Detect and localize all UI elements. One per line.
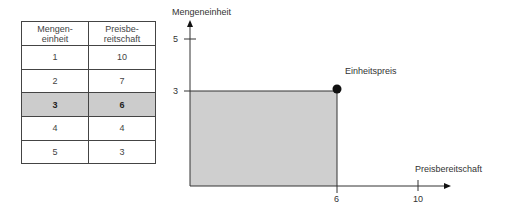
y-tick-5: 5 bbox=[173, 34, 178, 44]
y-axis-arrow-icon bbox=[187, 20, 193, 27]
y-axis-label: Mengeneinheit bbox=[172, 7, 231, 17]
x-tick-6: 6 bbox=[334, 194, 339, 204]
y-tick-3: 3 bbox=[173, 86, 178, 96]
x-axis-label: Preisbereitschaft bbox=[415, 164, 482, 174]
unit-price-point bbox=[333, 85, 342, 94]
point-label: Einheitspreis bbox=[345, 66, 397, 76]
chart bbox=[0, 0, 507, 213]
shaded-area bbox=[190, 91, 337, 186]
x-axis-arrow-icon bbox=[444, 183, 451, 189]
x-tick-10: 10 bbox=[413, 194, 423, 204]
